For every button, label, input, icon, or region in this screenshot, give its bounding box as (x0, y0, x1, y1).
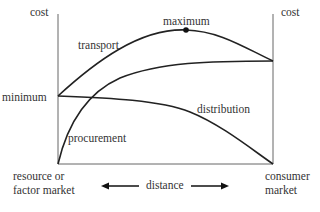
minimum-label: minimum (2, 91, 47, 104)
left-cost-label: cost (30, 6, 49, 19)
consumer-market-line2: market (265, 184, 310, 197)
maximum-label: maximum (163, 15, 210, 28)
procurement-label: procurement (68, 132, 126, 145)
consumer-market-label: consumer market (265, 170, 310, 197)
distance-label: distance (146, 179, 184, 192)
right-arrow-head (221, 183, 229, 190)
right-cost-label: cost (281, 6, 300, 19)
resource-market-line2: factor market (13, 184, 75, 197)
left-arrow-head (101, 183, 109, 190)
consumer-market-line1: consumer (265, 170, 310, 183)
transport-label: transport (78, 39, 119, 52)
distribution-label: distribution (197, 103, 250, 116)
maximum-point (183, 27, 189, 33)
resource-market-line1: resource or (13, 170, 75, 183)
resource-market-label: resource or factor market (13, 170, 75, 197)
